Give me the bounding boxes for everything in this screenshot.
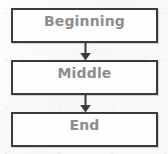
- node-label: Middle: [13, 65, 156, 82]
- down-arrow-icon: [79, 95, 92, 113]
- flowchart-diagram: Beginning Middle End: [0, 0, 168, 154]
- node-label: Beginning: [13, 13, 156, 30]
- down-arrow-icon: [79, 43, 92, 61]
- flowchart-node-middle[interactable]: Middle: [11, 60, 158, 95]
- flowchart-node-beginning[interactable]: Beginning: [11, 8, 158, 43]
- node-label: End: [13, 117, 156, 134]
- flowchart-node-end[interactable]: End: [11, 112, 158, 147]
